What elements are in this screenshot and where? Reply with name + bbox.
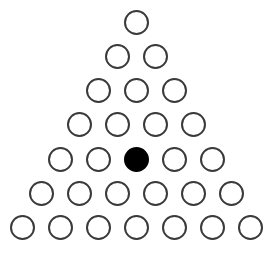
empty-hole[interactable] — [181, 112, 206, 137]
empty-hole[interactable] — [219, 181, 244, 206]
empty-hole[interactable] — [67, 181, 92, 206]
empty-hole[interactable] — [238, 215, 263, 240]
empty-hole[interactable] — [29, 181, 54, 206]
empty-hole[interactable] — [105, 44, 130, 69]
empty-hole[interactable] — [48, 147, 73, 172]
empty-hole[interactable] — [86, 215, 111, 240]
empty-hole[interactable] — [143, 181, 168, 206]
empty-hole[interactable] — [162, 78, 187, 103]
empty-hole[interactable] — [143, 44, 168, 69]
peg[interactable] — [124, 147, 149, 172]
empty-hole[interactable] — [162, 215, 187, 240]
empty-hole[interactable] — [124, 10, 149, 35]
empty-hole[interactable] — [200, 147, 225, 172]
empty-hole[interactable] — [124, 215, 149, 240]
empty-hole[interactable] — [162, 147, 187, 172]
empty-hole[interactable] — [200, 215, 225, 240]
empty-hole[interactable] — [86, 78, 111, 103]
empty-hole[interactable] — [48, 215, 73, 240]
empty-hole[interactable] — [124, 78, 149, 103]
empty-hole[interactable] — [105, 181, 130, 206]
empty-hole[interactable] — [86, 147, 111, 172]
empty-hole[interactable] — [143, 112, 168, 137]
empty-hole[interactable] — [10, 215, 35, 240]
empty-hole[interactable] — [181, 181, 206, 206]
empty-hole[interactable] — [67, 112, 92, 137]
peg-board — [0, 0, 272, 254]
empty-hole[interactable] — [105, 112, 130, 137]
